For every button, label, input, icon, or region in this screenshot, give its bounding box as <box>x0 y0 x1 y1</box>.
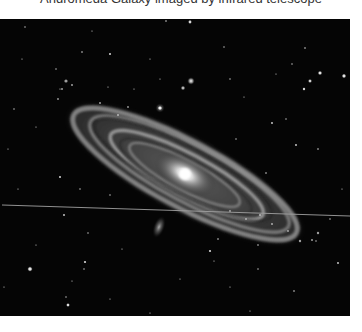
galaxy-photo <box>0 19 350 316</box>
companion-galaxy-upper <box>155 103 165 113</box>
caption-container: Andromeda Galaxy imaged by infrared tele… <box>0 0 362 8</box>
image-caption: Andromeda Galaxy imaged by infrared tele… <box>0 0 362 7</box>
galaxy-image <box>0 19 350 316</box>
